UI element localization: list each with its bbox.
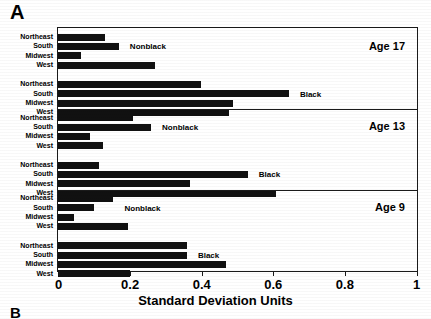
x-tick [59,271,60,276]
bar [58,204,94,211]
x-tick-label: 0.2 [121,278,139,291]
bar [58,242,187,249]
bar [58,223,128,230]
region-label-midwest: Midwest [0,180,55,187]
bar [58,43,119,50]
panel-divider [58,190,417,191]
group-annotation-nonblack: Nonblack [130,43,166,51]
bar-row [58,43,419,50]
x-tick-label: 0.6 [264,278,282,291]
bar [58,195,113,202]
bar-row [58,171,419,178]
bar [58,261,226,268]
bar-row [58,81,419,88]
bar-row [58,180,419,187]
group-annotation-black: Black [259,171,280,179]
region-label-south: South [0,123,55,130]
bar-row [58,142,419,149]
region-label-column: NortheastSouthMidwestWestNortheastSouthM… [0,0,55,319]
region-label-south: South [0,204,55,211]
bar-row [58,252,419,259]
bar-row [58,133,419,140]
bar-row [58,270,419,277]
bar-row [58,62,419,69]
x-tick [273,271,274,276]
region-label-south: South [0,42,55,49]
region-label-northeast: Northeast [0,114,55,121]
bar-row [58,114,419,121]
bar [58,90,289,97]
bar [58,52,81,59]
bar-row [58,124,419,131]
bar-row [58,90,419,97]
region-label-west: West [0,142,55,149]
bar [58,34,105,41]
bar [58,252,187,259]
bar [58,162,99,169]
bar-row [58,204,419,211]
bar [58,142,103,149]
x-axis-title: Standard Deviation Units [0,294,431,308]
region-label-northeast: Northeast [0,194,55,201]
bar [58,270,130,277]
x-tick [202,271,203,276]
region-label-midwest: Midwest [0,260,55,267]
bar [58,114,133,121]
region-label-midwest: Midwest [0,99,55,106]
region-label-south: South [0,90,55,97]
bar [58,133,90,140]
group-annotation-nonblack: Nonblack [162,124,198,132]
region-label-west: West [0,270,55,277]
bar [58,100,233,107]
region-label-south: South [0,170,55,177]
group-annotation-black: Black [300,91,321,99]
bar [58,180,190,187]
region-label-west: West [0,61,55,68]
bar-row [58,242,419,249]
bar [58,62,155,69]
bar-row [58,223,419,230]
region-label-midwest: Midwest [0,213,55,220]
bar-row [58,34,419,41]
group-annotation-nonblack: Nonblack [124,205,160,213]
region-label-midwest: Midwest [0,132,55,139]
bar-row [58,52,419,59]
bar-row [58,195,419,202]
region-label-northeast: Northeast [0,33,55,40]
bar [58,124,151,131]
x-tick-label: 0.8 [336,278,354,291]
x-tick-label: 0 [55,278,62,291]
group-annotation-black: Black [198,252,219,260]
region-label-northeast: Northeast [0,242,55,249]
x-tick [345,271,346,276]
bar [58,214,74,221]
region-label-northeast: Northeast [0,80,55,87]
bar-row [58,261,419,268]
bar-row [58,214,419,221]
x-tick [417,271,418,276]
bar [58,81,201,88]
bar-row [58,100,419,107]
chart-plot-area: Age 17NonblackBlackAge 13NonblackBlackAg… [57,27,418,272]
region-label-south: South [0,251,55,258]
x-tick-label: 1 [413,278,420,291]
x-tick [130,271,131,276]
region-label-northeast: Northeast [0,161,55,168]
region-label-midwest: Midwest [0,52,55,59]
region-label-west: West [0,222,55,229]
panel-letter-b: B [10,306,21,318]
x-tick-label: 0.4 [193,278,211,291]
bar [58,171,248,178]
bar-row [58,162,419,169]
panel-divider [58,109,417,110]
figure-panel-a: A NortheastSouthMidwestWestNortheastSout… [0,0,431,319]
